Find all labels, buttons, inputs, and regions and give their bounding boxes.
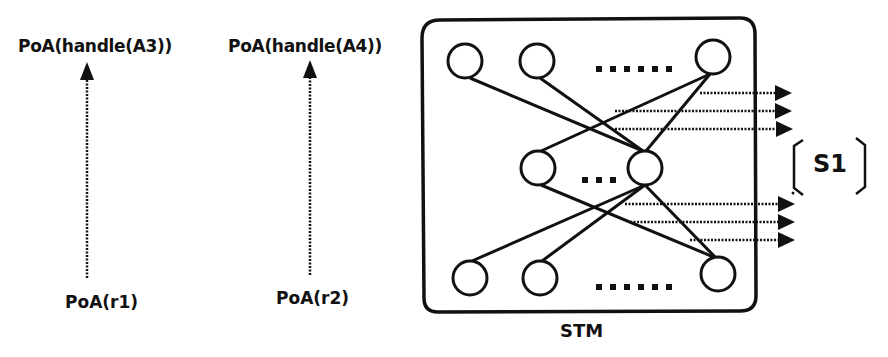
label-poa-handle-a4: PoA(handle(A4)) bbox=[228, 36, 382, 56]
output-arrows-lower bbox=[625, 204, 782, 240]
ellipsis-middle-row bbox=[582, 177, 616, 183]
label-s1: S1 bbox=[813, 150, 847, 178]
node-b1 bbox=[453, 261, 487, 295]
label-poa-r2: PoA(r2) bbox=[276, 288, 349, 308]
node-m2 bbox=[628, 151, 662, 185]
ellipsis-bottom-row bbox=[596, 284, 672, 290]
stm-edges bbox=[470, 74, 716, 261]
node-b3 bbox=[701, 257, 735, 291]
node-b2 bbox=[523, 261, 557, 295]
label-stm: STM bbox=[560, 320, 603, 341]
stm-nodes bbox=[448, 40, 735, 295]
node-t3 bbox=[696, 40, 730, 74]
arrow-r2-to-handle-a4 bbox=[303, 60, 317, 275]
label-poa-handle-a3: PoA(handle(A3)) bbox=[18, 36, 172, 56]
arrowhead-icon bbox=[775, 103, 792, 119]
edge-t3-m2 bbox=[646, 74, 710, 151]
arrowhead-icon bbox=[775, 85, 792, 101]
ellipsis-top-row bbox=[596, 66, 672, 72]
node-t2 bbox=[520, 44, 554, 78]
arrowhead-icon bbox=[80, 62, 94, 80]
output-arrowheads-lower bbox=[778, 196, 795, 248]
node-m1 bbox=[521, 151, 555, 185]
bracket-dot bbox=[792, 192, 795, 195]
arrowhead-icon bbox=[776, 121, 793, 137]
arrowhead-icon bbox=[303, 60, 317, 78]
bracket-left bbox=[794, 140, 803, 195]
arrowhead-icon bbox=[778, 232, 795, 248]
arrowhead-icon bbox=[778, 214, 795, 230]
output-arrowheads-upper bbox=[775, 85, 793, 137]
label-poa-r1: PoA(r1) bbox=[65, 292, 138, 312]
arrow-r1-to-handle-a3 bbox=[80, 62, 94, 278]
arrowhead-icon bbox=[778, 196, 795, 212]
node-t1 bbox=[448, 44, 482, 78]
bracket-right bbox=[856, 138, 865, 194]
